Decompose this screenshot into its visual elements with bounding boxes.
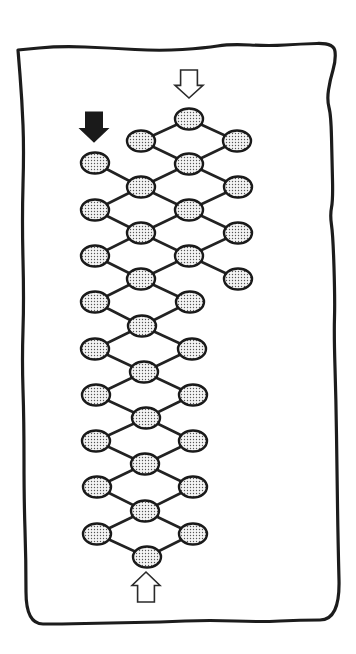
node-Q (176, 292, 204, 313)
node-M (175, 246, 203, 267)
left-entry-arrow-down-arrow-icon (80, 112, 108, 142)
node-L (81, 246, 109, 267)
node-J (127, 223, 155, 244)
node-S (81, 339, 109, 360)
bottom-entry-arrow-up-arrow-icon (132, 572, 160, 602)
node-H (81, 200, 109, 221)
node-R (128, 316, 156, 337)
node-AB (83, 477, 111, 498)
node-Z (179, 431, 207, 452)
node-E (175, 154, 203, 175)
node-P (81, 292, 109, 313)
node-B (127, 131, 155, 152)
lattice-diagram (0, 0, 356, 654)
node-AF (179, 524, 207, 545)
node-Y (82, 431, 110, 452)
node-K (224, 223, 252, 244)
node-AD (131, 501, 159, 522)
node-F (127, 177, 155, 198)
lattice-edges (95, 119, 238, 557)
node-U (130, 362, 158, 383)
node-N (127, 269, 155, 290)
node-G (224, 177, 252, 198)
node-AE (83, 524, 111, 545)
node-V (82, 385, 110, 406)
node-A (175, 109, 203, 130)
node-W (179, 385, 207, 406)
node-D (81, 153, 109, 174)
node-I (175, 200, 203, 221)
top-entry-arrow-down-arrow-icon (175, 70, 203, 98)
node-T (178, 339, 206, 360)
diagram-canvas: Hand-drawn framed diagram of a diamond-s… (0, 0, 356, 654)
node-AC (179, 477, 207, 498)
node-O (224, 269, 252, 290)
node-X (132, 408, 160, 429)
node-C (223, 131, 251, 152)
node-AA (131, 454, 159, 475)
node-AG (133, 547, 161, 568)
